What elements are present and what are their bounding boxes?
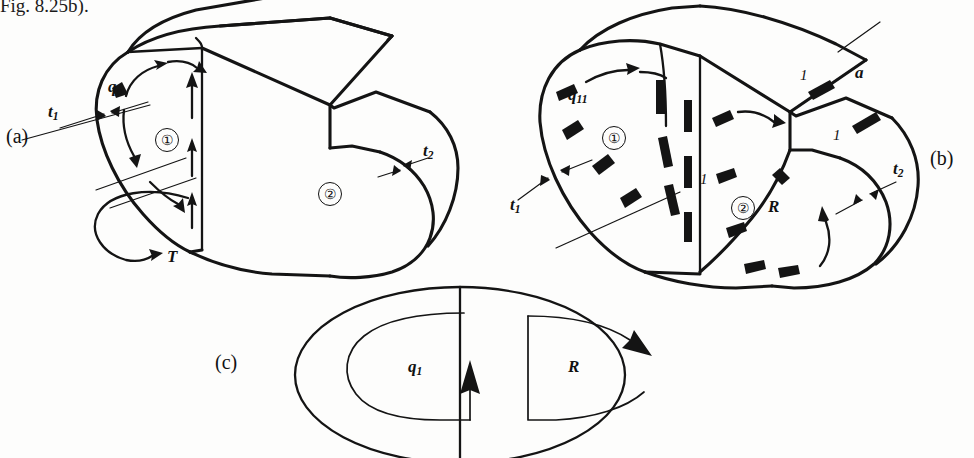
panel-c-right-loop [528,316,652,420]
figure-root: Fig. 8.25b). [0,0,974,458]
panel-c-caption: (c) [215,352,237,372]
panel-c-drawing [0,0,974,458]
panel-c-right-loop-label: R [568,358,579,375]
panel-c-left-loop-label: q1 [408,358,422,378]
